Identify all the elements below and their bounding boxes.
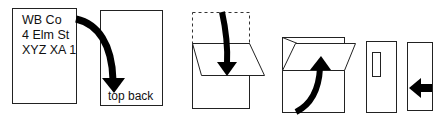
letter-folding-diagram: WB Co 4 Elm St XYZ XA 1 top back — [0, 0, 445, 121]
step-4-fold-bottom-up — [283, 38, 356, 113]
step-6-insert-envelope — [408, 43, 433, 111]
step-5-window-envelope — [367, 42, 397, 113]
top-back-label: top back — [108, 89, 153, 103]
address-line-street: 4 Elm St — [22, 28, 76, 43]
address-line-company: WB Co — [22, 13, 76, 28]
address-block: WB Co 4 Elm St XYZ XA 1 — [22, 13, 76, 58]
address-line-city: XYZ XA 1 — [22, 43, 76, 58]
step-3-fold-top-down — [193, 12, 265, 109]
